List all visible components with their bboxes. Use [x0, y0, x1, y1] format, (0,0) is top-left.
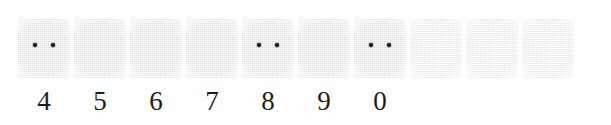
- scanned-bubble-strip: 4 5 6 7 8 9 0: [0, 0, 611, 125]
- digit-label-3: 6: [130, 84, 182, 118]
- pencil-marks-5: [242, 41, 294, 49]
- mark-dot-icon: [51, 43, 55, 47]
- bubble-cell-1[interactable]: [18, 18, 70, 78]
- bubble-cell-5[interactable]: [242, 18, 294, 78]
- digit-label-row: 4 5 6 7 8 9 0: [18, 84, 578, 122]
- digit-label-6: 9: [298, 84, 350, 118]
- mark-dot-icon: [275, 43, 279, 47]
- digit-label-5: 8: [242, 84, 294, 118]
- bubble-cell-10[interactable]: [522, 18, 574, 78]
- mark-dot-icon: [33, 43, 37, 47]
- bubble-cell-2[interactable]: [74, 18, 126, 78]
- pencil-marks-7: [354, 41, 406, 49]
- bubble-cell-9[interactable]: [466, 18, 518, 78]
- digit-label-4: 7: [186, 84, 238, 118]
- pencil-marks-1: [18, 41, 70, 49]
- digit-label-1: 4: [18, 84, 70, 118]
- bubble-cell-6[interactable]: [298, 18, 350, 78]
- digit-label-7: 0: [354, 84, 406, 118]
- bubble-cell-7[interactable]: [354, 18, 406, 78]
- mark-dot-icon: [369, 43, 373, 47]
- bubble-cell-row: [18, 18, 578, 78]
- digit-label-2: 5: [74, 84, 126, 118]
- bubble-cell-8[interactable]: [410, 18, 462, 78]
- bubble-cell-3[interactable]: [130, 18, 182, 78]
- bubble-cell-4[interactable]: [186, 18, 238, 78]
- mark-dot-icon: [387, 43, 391, 47]
- mark-dot-icon: [257, 43, 261, 47]
